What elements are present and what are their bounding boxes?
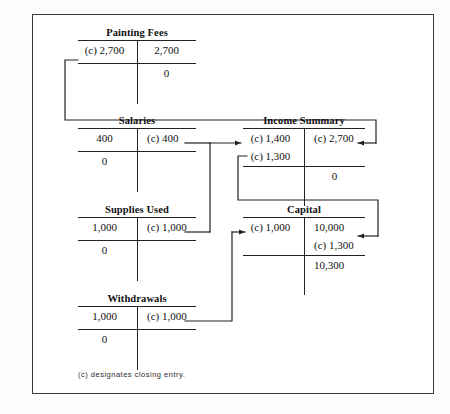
debit-entry: (c) 1,000	[243, 220, 304, 238]
taccount-title-withdrawals: Withdrawals	[78, 293, 196, 305]
debit-balance: 0	[78, 154, 137, 168]
debit-entry: 400	[78, 131, 137, 149]
credit-balance: 0	[304, 169, 365, 183]
credit-balance: 0	[137, 66, 196, 80]
taccount-divider	[304, 129, 305, 206]
taccount-divider	[137, 129, 138, 192]
taccount-title-capital: Capital	[243, 204, 365, 216]
debit-entry-1: (c) 1,400	[243, 131, 304, 149]
credit-entry-2: (c) 1,300	[304, 238, 365, 252]
closing-entry-footnote: (c) designates closing entry.	[78, 370, 185, 379]
taccount-painting-fees: Painting Fees (c) 2,700 2,700 0	[78, 27, 196, 82]
debit-entry: 1,000	[78, 309, 137, 327]
debit-entry: (c) 2,700	[78, 43, 137, 61]
taccount-divider	[137, 307, 138, 370]
taccount-income-summary: Income Summary (c) 1,400 (c) 2,700 (c) 1…	[243, 115, 365, 185]
taccount-title-supplies-used: Supplies Used	[78, 204, 196, 216]
debit-balance: 0	[78, 243, 137, 257]
taccount-title-painting-fees: Painting Fees	[78, 27, 196, 39]
taccount-divider	[137, 218, 138, 281]
credit-entry-1: 10,000	[304, 220, 365, 238]
taccount-title-salaries: Salaries	[78, 115, 196, 127]
credit-entry: (c) 400	[137, 131, 196, 149]
credit-balance: 10,300	[304, 258, 365, 272]
debit-balance: 0	[78, 332, 137, 346]
credit-entry: (c) 1,000	[137, 309, 196, 327]
taccount-withdrawals: Withdrawals 1,000 (c) 1,000 0	[78, 293, 196, 348]
debit-entry: 1,000	[78, 220, 137, 238]
debit-entry-2: (c) 1,300	[243, 149, 304, 163]
taccount-supplies-used: Supplies Used 1,000 (c) 1,000 0	[78, 204, 196, 259]
credit-entry: (c) 2,700	[304, 131, 365, 149]
figure-canvas: Painting Fees (c) 2,700 2,700 0 Salaries…	[0, 0, 450, 414]
taccount-salaries: Salaries 400 (c) 400 0	[78, 115, 196, 170]
credit-entry: 2,700	[137, 43, 196, 61]
taccount-divider	[304, 218, 305, 295]
taccount-capital: Capital (c) 1,000 10,000 (c) 1,300 10,30…	[243, 204, 365, 274]
taccount-title-income-summary: Income Summary	[243, 115, 365, 127]
taccount-divider	[137, 41, 138, 104]
credit-entry: (c) 1,000	[137, 220, 196, 238]
